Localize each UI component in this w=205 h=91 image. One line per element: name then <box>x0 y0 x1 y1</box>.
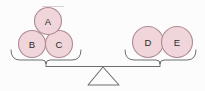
disc-b-label: B <box>29 39 36 50</box>
disc-c-label: C <box>55 39 62 50</box>
balance-scale-diagram: B C A D E <box>0 0 205 91</box>
fulcrum-triangle <box>88 67 119 85</box>
disc-a-label: A <box>45 16 52 27</box>
disc-b: B <box>19 31 46 58</box>
disc-d: D <box>133 27 164 58</box>
disc-a: A <box>35 8 62 35</box>
scale-illustration: B C A D E <box>0 0 205 91</box>
disc-d-label: D <box>144 37 151 48</box>
disc-e-label: E <box>174 37 181 48</box>
disc-e: E <box>162 27 193 58</box>
